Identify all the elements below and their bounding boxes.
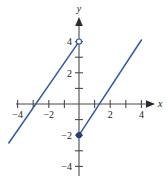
y-axis-arrow-icon — [75, 17, 83, 26]
open-circle-marker — [76, 39, 81, 44]
axes-group — [16, 17, 155, 176]
y-tick-label-4: 4 — [67, 36, 72, 47]
coordinate-plane: −4 −2 2 4 4 2 −2 −4 x y — [0, 0, 168, 182]
y-axis-label: y — [76, 3, 82, 14]
y-tick-label--4: −4 — [61, 161, 72, 172]
x-axis-label: x — [157, 98, 163, 109]
x-tick-label-2: 2 — [108, 109, 113, 120]
left-branch-segment — [9, 42, 79, 143]
graph-figure: −4 −2 2 4 4 2 −2 −4 x y — [0, 0, 168, 182]
right-branch-segment — [79, 40, 141, 135]
x-tick-label--4: −4 — [12, 109, 23, 120]
x-axis-arrow-icon — [146, 100, 155, 108]
filled-circle-marker — [76, 133, 81, 138]
y-tick-label--2: −2 — [61, 130, 72, 141]
curve-group — [9, 40, 142, 143]
y-tick-label-2: 2 — [67, 68, 72, 79]
x-tick-label-4: 4 — [139, 109, 144, 120]
x-tick-label--2: −2 — [43, 109, 54, 120]
